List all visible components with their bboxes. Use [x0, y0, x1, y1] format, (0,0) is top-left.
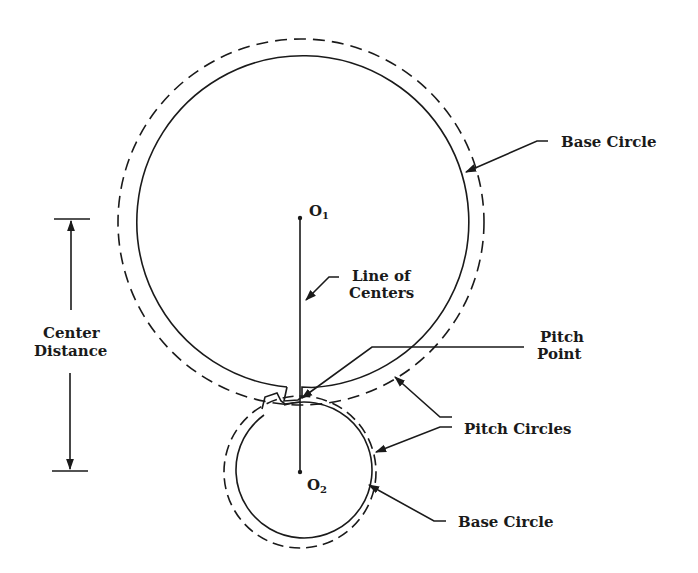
- large-pitch-circle: [118, 39, 484, 405]
- leader-line-of-centers: [306, 277, 339, 300]
- center-distance-label-2: Distance: [34, 342, 107, 360]
- leader-pitch-circles-small: [376, 427, 452, 452]
- center-distance-label-1: Center: [43, 324, 101, 342]
- center-o2-dot: [298, 470, 302, 474]
- line-of-centers-label-2: Centers: [349, 284, 414, 302]
- leader-pitch-point: [302, 347, 524, 398]
- leader-base-circle-bottom: [369, 485, 446, 521]
- base-circle-bottom-label: Base Circle: [458, 513, 554, 531]
- o1-label: O1: [309, 202, 329, 221]
- line-of-centers-label-1: Line of: [352, 267, 412, 285]
- gear-diagram: O1 O2 Base Circle Line of Centers Center…: [0, 0, 698, 573]
- leader-base-circle-top: [466, 141, 548, 172]
- small-base-circle: [236, 402, 372, 538]
- pitch-circles-label: Pitch Circles: [464, 420, 572, 438]
- pitch-point-label-1: Pitch: [540, 328, 584, 346]
- o2-label: O2: [307, 476, 327, 495]
- large-base-circle: [137, 56, 469, 388]
- base-circle-top-label: Base Circle: [561, 133, 657, 151]
- leader-pitch-circles-large: [395, 377, 452, 417]
- pitch-point-label-2: Point: [537, 345, 581, 363]
- center-o1-dot: [298, 216, 302, 220]
